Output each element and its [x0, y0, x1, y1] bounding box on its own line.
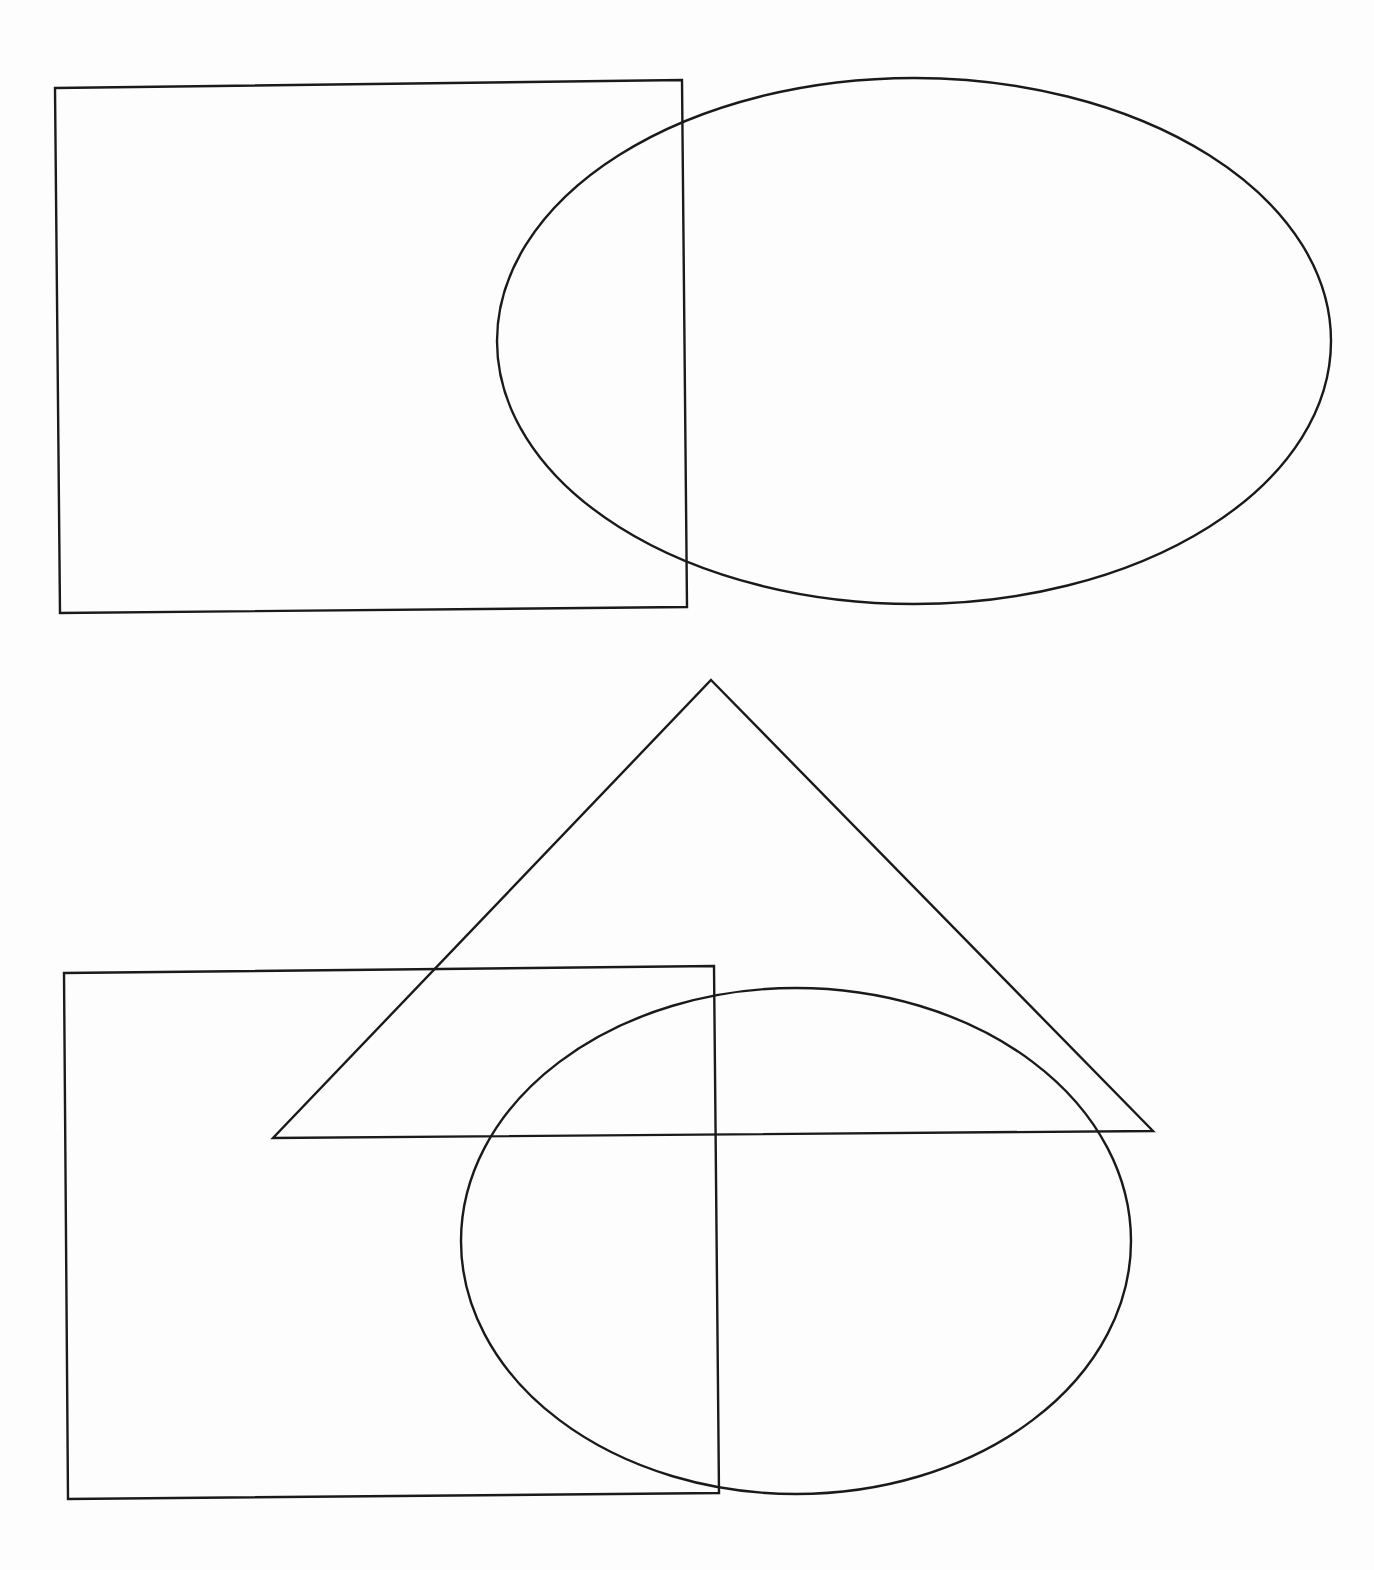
top-rectangle [55, 80, 687, 613]
top-ellipse [497, 78, 1331, 604]
bottom-ellipse [461, 988, 1131, 1494]
drawing-canvas [0, 0, 1374, 1570]
bottom-rectangle [64, 966, 719, 1499]
shapes-drawing [0, 0, 1374, 1570]
triangle [273, 680, 1153, 1138]
